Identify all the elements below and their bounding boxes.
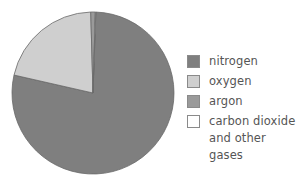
legend-item-argon: argon xyxy=(187,95,302,115)
legend-swatch-oxygen xyxy=(187,75,200,88)
legend: nitrogen oxygen argon carbon dioxide and… xyxy=(187,55,302,135)
legend-swatch-argon xyxy=(187,95,200,108)
legend-swatch-nitrogen xyxy=(187,55,200,68)
legend-label: carbon dioxide and other gases xyxy=(209,113,302,164)
legend-swatch-other-gases xyxy=(187,115,200,128)
legend-label: oxygen xyxy=(209,75,252,88)
legend-label-line2: and other gases xyxy=(209,131,266,162)
legend-label-line1: carbon dioxide xyxy=(209,114,295,128)
pie-chart xyxy=(0,0,190,181)
legend-label: argon xyxy=(209,95,243,108)
legend-label: nitrogen xyxy=(209,55,258,68)
legend-item-nitrogen: nitrogen xyxy=(187,55,302,75)
legend-item-oxygen: oxygen xyxy=(187,75,302,95)
legend-item-other-gases: carbon dioxide and other gases xyxy=(187,115,302,135)
